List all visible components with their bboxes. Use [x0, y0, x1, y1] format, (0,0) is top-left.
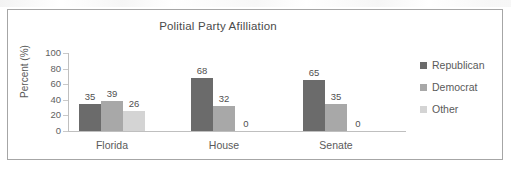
y-tick-label: 40 — [15, 94, 61, 105]
legend-swatch-icon — [420, 62, 427, 69]
legend-swatch-icon — [420, 106, 427, 113]
bar-value-label: 0 — [231, 118, 261, 129]
x-axis-category-label: Senate — [281, 139, 391, 151]
bar[interactable] — [191, 78, 213, 131]
bar-value-label: 35 — [321, 91, 351, 102]
x-axis-line — [68, 131, 406, 132]
bar-value-label: 68 — [187, 65, 217, 76]
bar-value-label: 32 — [209, 93, 239, 104]
legend-item[interactable]: Other — [420, 98, 485, 120]
plot-area: 353926Florida68320House65350Senate — [69, 53, 406, 131]
bar[interactable] — [123, 111, 145, 131]
x-axis-category-label: Florida — [57, 139, 167, 151]
bar[interactable] — [79, 104, 101, 131]
chart-legend: RepublicanDemocratOther — [420, 54, 485, 120]
bar-value-label: 26 — [119, 98, 149, 109]
bar-value-label: 65 — [299, 67, 329, 78]
legend-item[interactable]: Democrat — [420, 76, 485, 98]
y-tick-label: 100 — [15, 47, 61, 58]
bar-group: 353926Florida — [79, 53, 145, 131]
x-axis-category-label: House — [169, 139, 279, 151]
y-tick-label: 20 — [15, 109, 61, 120]
chart-title: Politial Party Afilliation — [8, 20, 428, 32]
bar-group: 68320House — [191, 53, 257, 131]
bar-group: 65350Senate — [303, 53, 369, 131]
legend-swatch-icon — [420, 84, 427, 91]
legend-label: Democrat — [432, 81, 478, 93]
clipped-text-artifact — [0, 0, 511, 7]
bar[interactable] — [303, 80, 325, 131]
legend-label: Republican — [432, 59, 485, 71]
y-tick-label: 80 — [15, 63, 61, 74]
legend-item[interactable]: Republican — [420, 54, 485, 76]
bar-value-label: 0 — [343, 118, 373, 129]
legend-label: Other — [432, 103, 458, 115]
chart-container: Politial Party Afilliation Percent (%) 1… — [7, 9, 503, 160]
y-tick-label: 60 — [15, 78, 61, 89]
y-tick-label: 0 — [15, 125, 61, 136]
